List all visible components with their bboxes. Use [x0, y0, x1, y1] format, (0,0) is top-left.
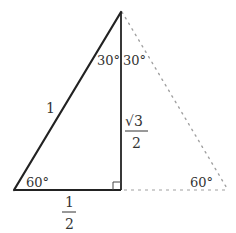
- dotted-right-side: [122, 12, 228, 190]
- vertical-side-numerator: √3: [125, 113, 143, 129]
- apex-angle-left-label: 30°: [97, 53, 120, 68]
- bottom-right-angle-label: 60°: [190, 175, 213, 190]
- hypotenuse-label: 1: [46, 100, 55, 116]
- base-denominator: 2: [65, 216, 74, 232]
- right-angle-marker: [113, 182, 121, 190]
- bottom-left-angle-label: 60°: [26, 175, 49, 190]
- vertical-side-denominator: 2: [132, 135, 141, 151]
- diagram-svg: 30° 30° 1 √3 2 60° 60° 1 2: [0, 0, 236, 233]
- base-numerator: 1: [65, 194, 74, 210]
- triangle-diagram: 30° 30° 1 √3 2 60° 60° 1 2: [0, 0, 236, 233]
- hypotenuse-line: [14, 12, 121, 190]
- apex-angle-right-label: 30°: [123, 53, 146, 68]
